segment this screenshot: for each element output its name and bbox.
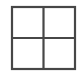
grid-view-button[interactable] — [0, 0, 78, 72]
grid-view-icon — [0, 0, 78, 72]
